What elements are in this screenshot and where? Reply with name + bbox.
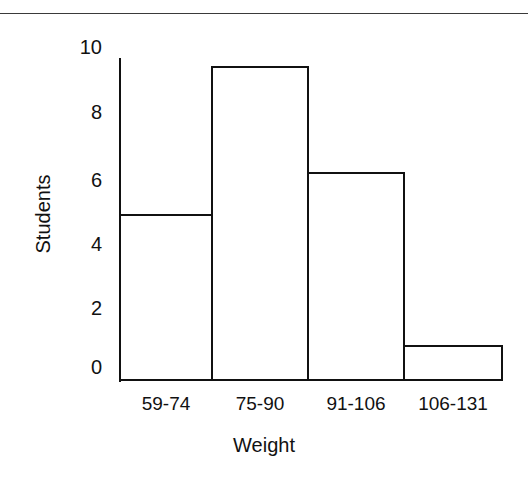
y-axis-label: Students bbox=[29, 129, 57, 299]
y-tick-label-4: 4 bbox=[62, 234, 102, 254]
x-tick-label-59-74: 59-74 bbox=[119, 394, 213, 414]
bar-59-74 bbox=[119, 214, 213, 381]
y-axis-label-text: Students bbox=[29, 129, 57, 299]
x-tick-label-91-106: 91-106 bbox=[307, 394, 405, 414]
bar-91-106 bbox=[307, 172, 405, 381]
y-tick-label-6: 6 bbox=[62, 170, 102, 190]
histogram-chart: Students 10 8 6 4 2 0 59-74 75-90 91-106… bbox=[0, 0, 528, 484]
x-tick-label-75-90: 75-90 bbox=[211, 394, 309, 414]
bar-106-131 bbox=[403, 345, 503, 381]
x-axis-label: Weight bbox=[0, 434, 528, 457]
y-tick-label-2: 2 bbox=[62, 298, 102, 318]
figure-canvas: Students 10 8 6 4 2 0 59-74 75-90 91-106… bbox=[0, 0, 528, 484]
x-tick-label-106-131: 106-131 bbox=[403, 394, 503, 414]
y-tick-label-8: 8 bbox=[62, 102, 102, 122]
y-tick-label-0: 0 bbox=[62, 357, 102, 377]
y-tick-label-10: 10 bbox=[62, 37, 102, 57]
bar-75-90 bbox=[211, 66, 309, 381]
